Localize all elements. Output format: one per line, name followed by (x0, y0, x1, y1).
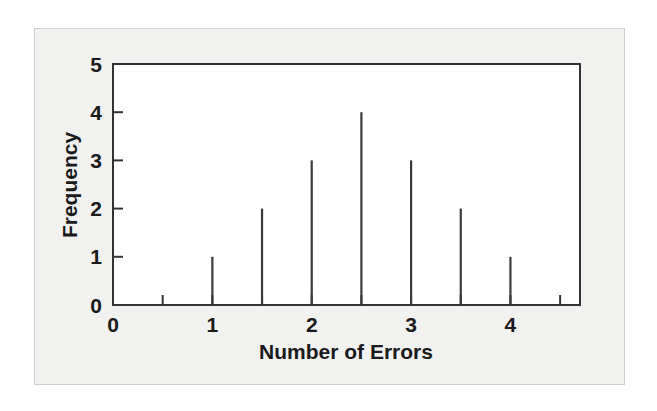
y-tick-label: 2 (90, 197, 102, 220)
y-tick-label: 0 (90, 294, 102, 317)
y-tick-label: 1 (90, 245, 102, 268)
x-axis-tick-labels: 01234 (107, 313, 516, 336)
y-tick-label: 5 (90, 53, 102, 76)
x-tick-label: 2 (306, 313, 318, 336)
x-tick-label: 0 (107, 313, 119, 336)
y-axis-tick-labels: 012345 (90, 53, 102, 317)
y-tick-label: 4 (90, 101, 102, 124)
x-tick-label: 1 (207, 313, 219, 336)
x-tick-label: 3 (405, 313, 417, 336)
y-tick-label: 3 (90, 149, 102, 172)
x-axis-title: Number of Errors (259, 340, 433, 363)
x-tick-label: 4 (505, 313, 517, 336)
figure-root: 012345 01234 Number of Errors Frequency (0, 0, 657, 411)
y-axis-title: Frequency (58, 132, 81, 239)
frequency-spike-chart: 012345 01234 Number of Errors Frequency (0, 0, 657, 411)
